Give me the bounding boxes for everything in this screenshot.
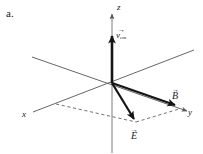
y-axis	[32, 57, 187, 111]
v-em-subscript: em	[120, 35, 126, 40]
y-axis-label: y	[188, 108, 192, 117]
b-symbol: B	[172, 91, 178, 101]
vector-diagram	[0, 0, 203, 154]
dashed-guide-e-to-y	[136, 109, 179, 122]
b-vector-label: → B	[172, 88, 178, 101]
figure-item-label: a.	[6, 8, 14, 19]
dashed-guide-x-to-e	[56, 104, 136, 122]
x-axis-label: x	[22, 110, 26, 119]
e-vector-label: → E	[131, 128, 137, 141]
b-vector	[112, 83, 175, 105]
v-em-vector-label: → vem	[116, 28, 126, 40]
e-symbol: E	[131, 131, 137, 141]
z-axis-label: z	[117, 3, 121, 12]
figure-container: a. z x y → vem → B → E	[0, 0, 203, 154]
